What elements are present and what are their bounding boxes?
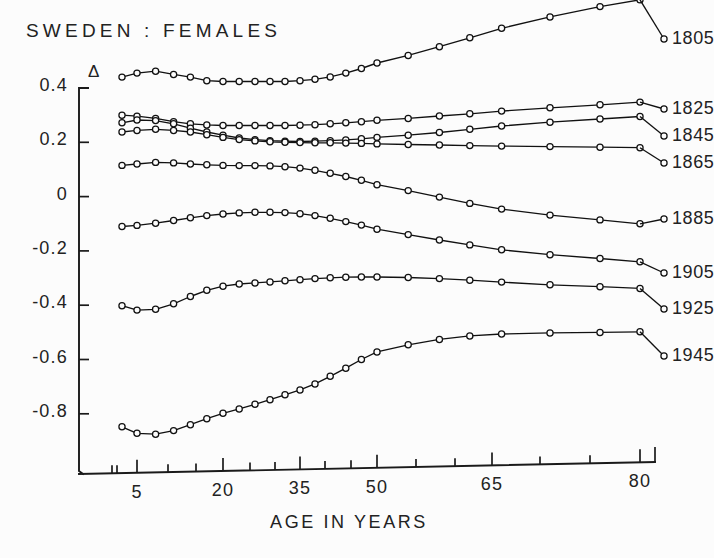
data-point-marker — [405, 342, 411, 348]
series-end-marker — [661, 106, 667, 112]
data-point-marker — [547, 144, 553, 150]
data-series — [119, 99, 643, 129]
data-point-marker — [282, 78, 288, 84]
data-point-marker — [220, 211, 226, 217]
data-point-marker — [312, 213, 318, 219]
data-point-marker — [187, 422, 193, 428]
data-point-marker — [327, 121, 333, 127]
x-axis-tick-label: 80 — [610, 471, 670, 492]
data-point-marker — [343, 70, 349, 76]
data-point-marker — [187, 215, 193, 221]
data-point-marker — [547, 119, 553, 125]
data-point-marker — [467, 35, 473, 41]
data-point-marker — [153, 159, 159, 165]
y-axis-tick-label: -0.2 — [0, 238, 68, 259]
data-point-marker — [374, 134, 380, 140]
y-axis-tick-label: -0.4 — [0, 292, 68, 313]
data-point-marker — [236, 163, 242, 169]
series-end-marker — [661, 133, 667, 139]
data-point-marker — [405, 132, 411, 138]
series-end-marker — [661, 270, 667, 276]
data-point-marker — [252, 122, 258, 128]
data-point-marker — [171, 71, 177, 77]
data-point-marker — [119, 120, 125, 126]
data-point-marker — [297, 165, 303, 171]
data-point-marker — [327, 275, 333, 281]
data-point-marker — [597, 4, 603, 10]
data-point-marker — [374, 117, 380, 123]
series-line-1805 — [122, 0, 640, 81]
data-point-marker — [282, 139, 288, 145]
data-point-marker — [134, 70, 140, 76]
data-point-marker — [467, 242, 473, 248]
series-label-1805: 1805 — [672, 28, 714, 49]
data-point-marker — [171, 121, 177, 127]
data-point-marker — [499, 25, 505, 31]
data-point-marker — [252, 401, 258, 407]
data-point-marker — [153, 431, 159, 437]
data-point-marker — [119, 424, 125, 430]
data-point-marker — [312, 122, 318, 128]
data-point-marker — [436, 276, 442, 282]
data-point-marker — [252, 280, 258, 286]
data-point-marker — [204, 287, 210, 293]
data-point-marker — [187, 74, 193, 80]
data-point-marker — [220, 283, 226, 289]
data-point-marker — [467, 277, 473, 283]
data-point-marker — [220, 410, 226, 416]
series-label-1885: 1885 — [672, 208, 714, 229]
data-point-marker — [374, 141, 380, 147]
x-axis-line — [79, 462, 655, 474]
x-axis-tick-label: 20 — [193, 480, 253, 501]
data-point-marker — [499, 123, 505, 129]
data-point-marker — [499, 247, 505, 253]
x-axis-tick-label: 5 — [107, 482, 167, 503]
data-point-marker — [343, 365, 349, 371]
data-series — [119, 274, 643, 313]
data-point-marker — [134, 117, 140, 123]
data-point-marker — [547, 252, 553, 258]
data-point-marker — [547, 330, 553, 336]
data-point-marker — [358, 140, 364, 146]
data-point-marker — [134, 430, 140, 436]
data-point-marker — [204, 213, 210, 219]
data-point-marker — [547, 105, 553, 111]
data-point-marker — [297, 211, 303, 217]
data-point-marker — [597, 329, 603, 335]
data-point-marker — [343, 120, 349, 126]
series-end-marker — [661, 306, 667, 312]
series-label-1845: 1845 — [672, 125, 714, 146]
data-point-marker — [297, 122, 303, 128]
data-point-marker — [597, 144, 603, 150]
data-point-marker — [171, 160, 177, 166]
data-point-marker — [499, 143, 505, 149]
data-point-marker — [343, 274, 349, 280]
y-axis-tick-label: -0.8 — [0, 401, 68, 422]
data-point-marker — [267, 279, 273, 285]
data-point-marker — [153, 220, 159, 226]
data-point-marker — [187, 129, 193, 135]
data-point-marker — [436, 113, 442, 119]
data-point-marker — [187, 161, 193, 167]
series-line-1865 — [122, 129, 640, 147]
data-point-marker — [405, 188, 411, 194]
data-point-marker — [312, 76, 318, 82]
data-point-marker — [187, 293, 193, 299]
data-point-marker — [327, 140, 333, 146]
leader-line-1825 — [640, 102, 664, 109]
leader-line-1905 — [640, 262, 664, 273]
data-point-marker — [436, 44, 442, 50]
data-point-marker — [297, 78, 303, 84]
data-series — [119, 209, 643, 265]
data-point-marker — [436, 142, 442, 148]
data-point-marker — [343, 140, 349, 146]
data-point-marker — [282, 278, 288, 284]
data-point-marker — [204, 78, 210, 84]
data-point-marker — [171, 428, 177, 434]
y-axis-tick-label: 0.2 — [0, 129, 68, 150]
data-point-marker — [547, 14, 553, 20]
data-point-marker — [467, 333, 473, 339]
data-point-marker — [153, 126, 159, 132]
